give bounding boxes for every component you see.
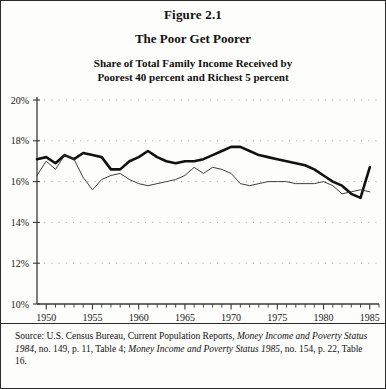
source-note: Source: U.S. Census Bureau, Current Popu…: [1, 323, 386, 368]
x-tick-label: 1980: [314, 312, 334, 321]
figure-container: Figure 2.1 The Poor Get Poorer Share of …: [0, 0, 386, 389]
y-tick-label: 14%: [11, 217, 29, 228]
chart-gridlines: [37, 100, 379, 263]
figure-subtitle: Share of Total Family Income Received by…: [1, 56, 385, 84]
chart-plot-area: 10%12%14%16%18%20% 195019551960196519701…: [1, 89, 386, 321]
y-tick-label: 20%: [11, 95, 29, 106]
y-tick-label: 12%: [11, 258, 29, 269]
y-tick-label: 10%: [11, 299, 29, 310]
chart-axes: [37, 97, 379, 304]
source-middle: , no. 149, p. 11, Table 4;: [34, 344, 128, 354]
x-tick-label: 1965: [175, 312, 195, 321]
figure-subtitle-line-2: Poorest 40 percent and Richest 5 percent: [1, 70, 385, 84]
source-italic-title-2: Money Income and Poverty Status 1985: [128, 344, 280, 354]
y-tick-label: 18%: [11, 135, 29, 146]
figure-number: Figure 2.1: [1, 7, 385, 23]
chart-x-ticks: [46, 304, 379, 310]
chart-y-tick-labels: 10%12%14%16%18%20%: [11, 95, 29, 310]
y-tick-label: 16%: [11, 176, 29, 187]
chart-series-group: [37, 147, 370, 198]
x-tick-label: 1955: [82, 312, 102, 321]
x-tick-label: 1950: [36, 312, 56, 321]
x-tick-label: 1960: [129, 312, 149, 321]
figure-subtitle-line-1: Share of Total Family Income Received by: [1, 56, 385, 70]
line-chart-svg: 10%12%14%16%18%20% 195019551960196519701…: [1, 89, 386, 321]
figure-header: Figure 2.1 The Poor Get Poorer Share of …: [1, 1, 385, 84]
x-tick-label: 1985: [360, 312, 380, 321]
chart-x-tick-labels: 19501955196019651970197519801985: [36, 312, 380, 321]
x-tick-label: 1970: [221, 312, 241, 321]
figure-title: The Poor Get Poorer: [1, 31, 385, 47]
source-prefix: Source: U.S. Census Bureau, Current Popu…: [15, 331, 237, 341]
x-tick-label: 1975: [267, 312, 287, 321]
